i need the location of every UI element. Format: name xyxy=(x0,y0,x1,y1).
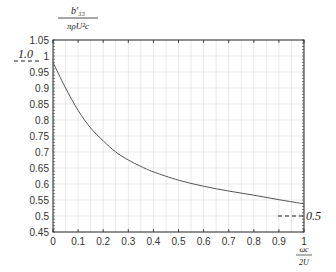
y-axis-label: b′₃₃ πρU²c xyxy=(58,5,98,31)
y-tick-label: 0.65 xyxy=(30,163,50,174)
x-tick-label: 0.1 xyxy=(71,236,85,247)
y-tick-label: 1 xyxy=(43,51,49,62)
y-tick-label: 0.55 xyxy=(30,195,50,206)
y-label-numerator: b′₃₃ xyxy=(71,5,86,16)
x-tick-label: 0.7 xyxy=(222,236,236,247)
y-tick-label: 0.8 xyxy=(35,115,49,126)
y-tick-label: 0.75 xyxy=(30,131,50,142)
left-annotation: 1.0 xyxy=(14,47,40,61)
y-tick-label: 0.5 xyxy=(35,211,49,222)
x-tick-label: 0.4 xyxy=(146,236,160,247)
line-chart: 00.10.20.30.40.50.60.70.80.91 0.450.50.5… xyxy=(0,0,336,272)
x-axis-label: ωc 2U xyxy=(296,245,312,267)
y-tick-label: 0.85 xyxy=(30,99,50,110)
y-label-denominator: πρU²c xyxy=(67,21,89,31)
annotation-0-5: 0.5 xyxy=(306,209,321,223)
x-tick-label: 0.6 xyxy=(197,236,211,247)
y-tick-label: 1.05 xyxy=(30,35,50,46)
y-tick-label: 0.6 xyxy=(35,179,49,190)
x-tick-label: 0.5 xyxy=(172,236,186,247)
y-tick-label: 0.95 xyxy=(30,67,50,78)
y-tick-label: 0.45 xyxy=(30,227,50,238)
x-label-numerator: ωc xyxy=(299,245,309,254)
x-tick-label: 0.8 xyxy=(247,236,261,247)
y-tick-label: 0.9 xyxy=(35,83,49,94)
y-tick-label: 0.7 xyxy=(35,147,49,158)
x-tick-label: 0.2 xyxy=(96,236,110,247)
y-tick-labels: 0.450.50.550.60.650.70.750.80.850.90.951… xyxy=(30,35,50,238)
x-tick-label: 0 xyxy=(50,236,56,247)
grid-lines xyxy=(53,40,304,232)
x-tick-labels: 00.10.20.30.40.50.60.70.80.91 xyxy=(50,236,307,247)
annotation-1-0: 1.0 xyxy=(18,47,33,61)
x-tick-label: 0.3 xyxy=(121,236,135,247)
x-label-denominator: 2U xyxy=(299,258,310,267)
x-tick-label: 0.9 xyxy=(272,236,286,247)
